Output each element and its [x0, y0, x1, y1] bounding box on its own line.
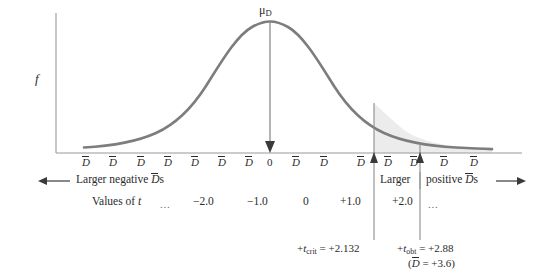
dbar-glyph: D: [470, 157, 478, 168]
left-direction-arrow: [38, 177, 70, 185]
x-tick-label-row: D D D D D D D 0 D D D D D D D: [0, 157, 540, 173]
x-tick-label: D: [245, 157, 253, 168]
x-tick-label: D: [109, 157, 117, 168]
x-tick-label: D: [470, 157, 478, 168]
values-of-t-label-a: Values of: [92, 195, 138, 207]
dbar-glyph: D: [191, 157, 199, 168]
dbar-glyph: D: [82, 157, 90, 168]
dbar-glyph: D: [440, 157, 448, 168]
mean-label: μD: [259, 4, 272, 18]
dbar-glyph: D: [410, 157, 418, 168]
t-crit-value: = +2.132: [317, 242, 360, 254]
x-tick-label-zero: 0: [267, 157, 273, 168]
t-value-plus-1: +1.0: [340, 196, 361, 208]
x-tick-label: D: [384, 157, 392, 168]
x-tick-label: D: [440, 157, 448, 168]
t-crit-annotation: +tcrit = +2.132: [297, 243, 360, 256]
t-obt-subscript: obt: [406, 247, 416, 256]
t-obt-value: = +2.88: [416, 242, 453, 254]
x-tick-label: D: [320, 157, 328, 168]
values-ellipsis-right: ...: [428, 199, 438, 210]
dbar-glyph: D: [109, 157, 117, 168]
dbar-glyph: D: [292, 157, 300, 168]
dbar-glyph: D: [218, 157, 226, 168]
x-tick-label: D: [292, 157, 300, 168]
t-value-minus-2: −2.0: [193, 196, 214, 208]
dbar-obt-value: = +3.6): [420, 257, 455, 269]
right-direction-text-b: positive: [426, 173, 465, 185]
distribution-curve: [84, 22, 492, 150]
dbar-glyph: D: [465, 174, 473, 186]
left-direction-text-a: Larger negative: [76, 173, 151, 185]
y-axis-label: f: [35, 72, 39, 85]
x-tick-label: D: [191, 157, 199, 168]
x-tick-label: D: [218, 157, 226, 168]
t-value-zero: 0: [303, 196, 309, 208]
dbar-obt-annotation: (D = +3.6): [408, 258, 455, 269]
x-tick-label: D: [410, 157, 418, 168]
left-direction-text: Larger negative Ds: [76, 174, 164, 186]
right-direction-text-d: s: [474, 173, 478, 185]
right-direction-text: positive Ds: [426, 174, 478, 186]
dbar-glyph: D: [357, 157, 365, 168]
right-direction-text-larger: Larger: [380, 174, 410, 186]
left-direction-text-c: s: [159, 173, 163, 185]
t-crit-subscript: crit: [306, 247, 317, 256]
x-tick-label: D: [82, 157, 90, 168]
values-ellipsis-left: ...: [160, 199, 170, 210]
dbar-glyph: D: [412, 258, 420, 269]
t-value-minus-1: −1.0: [247, 196, 268, 208]
x-tick-label: D: [357, 157, 365, 168]
dbar-glyph: D: [137, 157, 145, 168]
distribution-figure: [0, 0, 540, 277]
dbar-glyph: D: [245, 157, 253, 168]
mean-pointer-arrowhead: [265, 141, 275, 153]
dbar-glyph: D: [384, 157, 392, 168]
x-tick-label: D: [164, 157, 172, 168]
x-tick-label: D: [137, 157, 145, 168]
t-value-plus-2: +2.0: [392, 196, 413, 208]
dbar-glyph: D: [320, 157, 328, 168]
dbar-glyph: D: [164, 157, 172, 168]
values-of-t-label-b: t: [138, 195, 141, 207]
values-of-t-label: Values of t: [92, 196, 141, 208]
dbar-glyph: D: [151, 174, 159, 186]
mean-subscript: D: [265, 8, 271, 18]
right-direction-arrow: [496, 177, 526, 185]
t-obt-annotation: +tobt = +2.88: [397, 243, 454, 256]
